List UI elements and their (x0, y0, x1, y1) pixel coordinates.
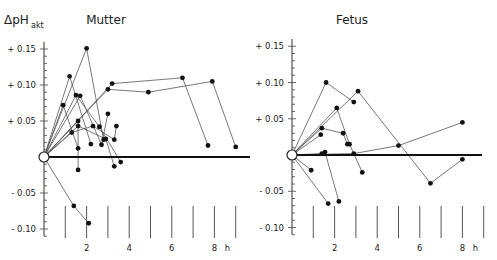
x-unit-label: h (225, 243, 230, 253)
data-point (206, 143, 211, 148)
data-point (309, 168, 314, 173)
data-point (319, 126, 324, 131)
series-line (292, 108, 362, 172)
data-point (334, 105, 339, 110)
data-point (336, 199, 341, 204)
data-point (78, 93, 83, 98)
data-point (97, 124, 102, 129)
y-axis-label: ΔpH akt (4, 13, 44, 30)
series-line (44, 126, 116, 157)
x-tick-label: 8 (460, 243, 465, 253)
data-point (76, 119, 81, 124)
x-tick-label: 6 (417, 243, 422, 253)
data-point (460, 157, 465, 162)
series-line (44, 157, 89, 223)
data-point (69, 130, 74, 135)
data-point (67, 74, 72, 79)
data-point (180, 75, 185, 80)
y-tick-label: + 0.05 (7, 116, 36, 126)
y-tick-label: - 0.10 (259, 223, 284, 233)
x-tick-label: 4 (126, 243, 131, 253)
series-line (292, 128, 347, 155)
x-tick-label: 8 (212, 243, 217, 253)
data-point (323, 150, 328, 155)
data-point (360, 170, 365, 175)
series-line (292, 83, 354, 156)
origin-marker (287, 150, 297, 160)
data-point (110, 81, 115, 86)
y-tick-label: - 0.05 (259, 186, 284, 196)
y-tick-label: + 0.10 (7, 80, 36, 90)
data-point (318, 132, 323, 137)
fetus-plot: + 0.15+ 0.10+ 0.05- 0.05- 0.102468h (255, 39, 483, 253)
x-tick-label: 2 (84, 243, 89, 253)
chart-figure: ΔpH akt Mutter Fetus + 0.15+ 0.10+ 0.05-… (0, 0, 497, 260)
panel-title-mutter: Mutter (86, 13, 126, 27)
data-point (61, 103, 66, 108)
data-point (106, 87, 111, 92)
data-point (324, 80, 329, 85)
y-tick-label: + 0.15 (7, 44, 36, 54)
y-tick-label: + 0.15 (255, 41, 284, 51)
data-point (396, 143, 401, 148)
y-tick-label: - 0.05 (11, 188, 36, 198)
x-unit-label: h (473, 243, 478, 253)
series-line (44, 78, 208, 157)
data-point (91, 124, 96, 129)
data-point (99, 142, 104, 147)
y-tick-label: + 0.05 (255, 114, 284, 124)
data-point (345, 142, 350, 147)
data-point (112, 137, 117, 142)
series-line (292, 122, 462, 155)
data-point (76, 146, 81, 151)
series-line (292, 155, 328, 204)
data-point (351, 151, 356, 156)
data-point (76, 124, 81, 129)
y-axis-label-sub: akt (31, 21, 44, 30)
data-point (114, 124, 119, 129)
x-tick-label: 4 (374, 243, 379, 253)
data-point (71, 204, 76, 209)
data-point (210, 79, 215, 84)
data-point (326, 201, 331, 206)
data-point (84, 46, 89, 51)
y-axis-label-main: ΔpH (4, 13, 29, 27)
data-point (118, 160, 123, 165)
panel-title-fetus: Fetus (336, 13, 368, 27)
origin-marker (39, 152, 49, 162)
data-point (88, 142, 93, 147)
data-point (460, 120, 465, 125)
data-point (356, 89, 361, 94)
data-point (76, 168, 81, 173)
data-point (103, 137, 108, 142)
y-tick-label: - 0.10 (11, 224, 36, 234)
data-point (86, 221, 91, 226)
x-tick-label: 6 (169, 243, 174, 253)
data-point (106, 111, 111, 116)
x-tick-label: 2 (332, 243, 337, 253)
data-point (74, 93, 79, 98)
data-point (233, 145, 238, 150)
data-point (341, 131, 346, 136)
data-point (351, 100, 356, 105)
series-line (292, 152, 339, 201)
data-point (112, 164, 117, 169)
y-tick-label: + 0.10 (255, 78, 284, 88)
data-point (146, 90, 151, 95)
mutter-plot: + 0.15+ 0.10+ 0.05- 0.05- 0.102468h (7, 42, 250, 253)
data-point (428, 181, 433, 186)
